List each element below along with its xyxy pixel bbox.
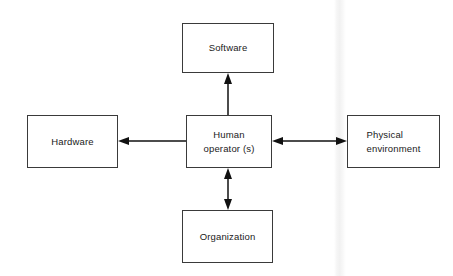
node-organization[interactable]: Organization: [182, 210, 273, 263]
node-human-operator-label: Human operator (s): [204, 128, 255, 156]
node-physical-environment-label: Physical environment: [367, 128, 421, 156]
node-human-operator[interactable]: Human operator (s): [186, 115, 272, 168]
edge-human-to-physical-environment: [272, 137, 347, 145]
node-hardware[interactable]: Hardware: [27, 115, 118, 168]
edge-human-to-organization: [224, 168, 232, 210]
node-software[interactable]: Software: [182, 23, 274, 73]
diagram-canvas: Software Hardware Human operator (s) Phy…: [0, 0, 453, 276]
node-hardware-label: Hardware: [51, 135, 93, 149]
node-organization-label: Organization: [200, 230, 256, 244]
edge-human-to-hardware: [118, 137, 186, 145]
node-physical-environment[interactable]: Physical environment: [347, 115, 440, 168]
node-software-label: Software: [209, 41, 248, 55]
edge-human-to-software: [224, 73, 232, 115]
